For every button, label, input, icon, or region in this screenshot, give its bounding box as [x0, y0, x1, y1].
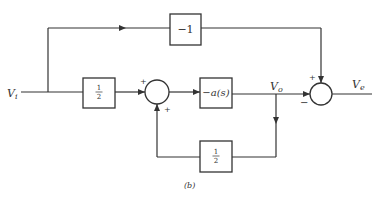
error-label: Ve [352, 78, 365, 92]
feedback-gain-num: 1 [214, 148, 218, 156]
gain-minus-one-label: −1 [177, 23, 193, 36]
summer2-minus-left: − [300, 97, 308, 108]
input-label: Vi [7, 87, 18, 101]
input-gain-den: 2 [97, 93, 101, 101]
feedback-gain-den: 2 [214, 157, 218, 165]
summer1-plus-bottom: + [164, 105, 171, 114]
caption: (b) [184, 181, 195, 190]
arrow-icon [318, 76, 324, 83]
output-label: Vo [270, 80, 283, 94]
summing-junction-1 [145, 80, 169, 104]
summer1-plus-top: + [140, 77, 147, 86]
input-gain-num: 1 [97, 84, 101, 92]
block-diagram: Vi −1 1 2 + + −a(s) Vo 1 2 + − [0, 0, 372, 198]
summing-junction-2 [310, 83, 332, 105]
arrow-icon [193, 89, 200, 95]
arrow-icon [154, 104, 160, 111]
amplifier-label: −a(s) [202, 87, 229, 98]
arrow-icon [119, 25, 126, 31]
arrow-icon [138, 89, 145, 95]
arrow-icon [273, 117, 279, 124]
summer2-plus-top: + [309, 73, 316, 82]
